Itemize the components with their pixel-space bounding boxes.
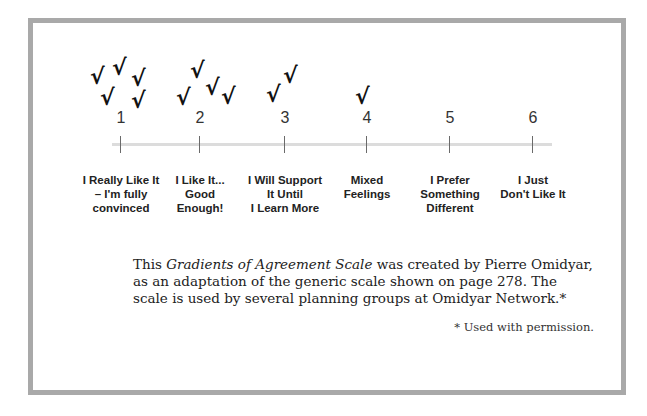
tick-6 — [532, 136, 533, 153]
checkmark-icon: √ — [131, 68, 146, 90]
caption-line-1: This Gradients of Agreement Scale was cr… — [133, 256, 613, 273]
scale-label-4: Mixed Feelings — [319, 173, 415, 201]
tick-2 — [199, 136, 200, 153]
tick-3 — [284, 136, 285, 153]
caption-line-2: as an adaptation of the generic scale sh… — [133, 273, 613, 290]
scale-number-5: 5 — [435, 109, 465, 127]
checkmark-icon: √ — [112, 57, 127, 79]
checkmark-icon: √ — [283, 65, 298, 87]
caption: This Gradients of Agreement Scale was cr… — [133, 256, 613, 307]
footnote: * Used with permission. — [454, 320, 594, 334]
scale-title: Gradients of Agreement Scale — [166, 256, 372, 272]
scale-label-2: I Like It... Good Enough! — [152, 173, 248, 215]
checkmark-icon: √ — [100, 87, 115, 109]
scale-label-5: I Prefer Something Different — [402, 173, 498, 215]
scale-number-4: 4 — [352, 109, 382, 127]
checkmark-icon: √ — [221, 86, 236, 108]
scale-label-6: I Just Don't Like It — [485, 173, 581, 201]
scale-number-3: 3 — [270, 109, 300, 127]
scale-number-6: 6 — [518, 109, 548, 127]
checkmark-icon: √ — [131, 90, 146, 112]
scale-number-2: 2 — [185, 109, 215, 127]
tick-5 — [449, 136, 450, 153]
checkmark-icon: √ — [205, 77, 220, 99]
scale-line — [112, 143, 552, 146]
checkmark-icon: √ — [176, 87, 191, 109]
figure-frame: 1 2 3 4 5 6 √ √ √ √ √ √ √ √ √ √ √ √ I Re… — [28, 18, 626, 395]
tick-4 — [366, 136, 367, 153]
checkmark-icon: √ — [190, 60, 205, 82]
checkmark-icon: √ — [266, 84, 281, 106]
checkmark-icon: √ — [355, 86, 370, 108]
tick-1 — [120, 136, 121, 153]
caption-line-3: scale is used by several planning groups… — [133, 290, 613, 307]
